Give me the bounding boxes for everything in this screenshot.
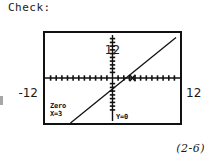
exercise-reference: (2-6) [176,142,205,155]
window-xmin-label: -12 [0,86,38,100]
window-ymax-label: 12 [43,43,182,57]
zero-x-value: X=3 [50,111,66,119]
zero-feature-readout: Zero X=3 [50,103,66,118]
zero-y-value: Y=0 [116,114,128,122]
window-xmax-label: 12 [186,86,201,100]
page-title: Check: [8,1,51,14]
calculator-graph-figure: Zero X=3 Y=0 12 -12 -12 12 [43,31,182,125]
